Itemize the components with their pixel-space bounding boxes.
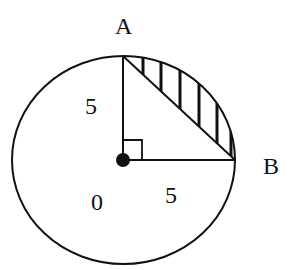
center-point	[116, 153, 130, 167]
label-radius-ob: 5	[165, 182, 177, 208]
label-point-b: B	[263, 153, 279, 179]
shaded-segment	[143, 50, 231, 170]
label-point-a: A	[115, 13, 133, 39]
label-center: 0	[91, 189, 103, 215]
geometry-diagram: A B 5 5 0	[0, 0, 294, 270]
label-radius-oa: 5	[85, 93, 97, 119]
